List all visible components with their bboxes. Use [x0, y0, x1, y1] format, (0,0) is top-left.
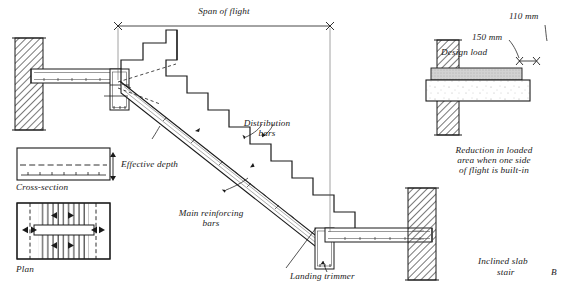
landing-trimmer-label: Landing trimmer [290, 271, 355, 282]
left-wall [12, 38, 46, 130]
figure-letter-label: B [551, 267, 557, 278]
main-reinforcing-bars-label-line1: Main reinforcing [158, 208, 264, 219]
distribution-bars-label-line2: bars [232, 128, 302, 139]
figure-title-label: Inclined slab [478, 256, 528, 267]
engineering-drawing-figure: Span of flight Distribution bars Main re… [0, 0, 570, 295]
detail-caption-line2: area when one side [424, 155, 564, 166]
cross-section-caption: Cross-section [16, 182, 68, 193]
detail-caption-line1: Reduction in loaded [424, 145, 564, 156]
right-wall [405, 188, 439, 280]
upper-landing-slab [31, 69, 121, 83]
inclined-slab-waist [121, 82, 329, 257]
main-reinforcing-bars-label-line2: bars [158, 218, 264, 229]
dim-150-arrows [516, 57, 540, 65]
distribution-bars-label-line1: Distribution [232, 118, 302, 129]
effective-depth-dimension [110, 152, 116, 181]
dim-150mm-label: 150 mm [472, 32, 502, 43]
cross-section-diagram [17, 148, 110, 180]
upper-riser-detail [152, 30, 177, 60]
plan-caption: Plan [16, 264, 34, 275]
dim-110mm-label: 110 mm [509, 11, 539, 22]
plan-diagram [17, 203, 110, 259]
detail-caption-line3: of flight is built-in [424, 165, 564, 176]
effective-depth-label: Effective depth [121, 159, 178, 170]
figure-subtitle-label: stair [497, 267, 515, 278]
design-load-label: Design load [441, 47, 487, 58]
span-of-flight-label: Span of flight [174, 6, 274, 17]
